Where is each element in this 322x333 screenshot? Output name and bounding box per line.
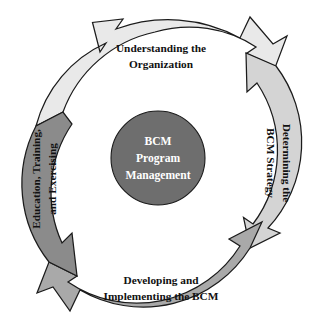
center-hub-line3: Management: [125, 169, 190, 182]
segment-determining-the-bcm-strategy[interactable]: Determining the BCM Strategy: [244, 53, 302, 248]
segment-label-right-line1: Determining the: [281, 124, 293, 203]
segment-label-right-line2: BCM Strategy: [265, 128, 277, 198]
segment-label-left-line1: Education, Training,: [30, 129, 42, 229]
center-hub-line1: BCM: [144, 135, 171, 148]
center-hub[interactable]: BCM Program Management: [111, 111, 205, 205]
segment-label-top-line2: Organization: [129, 58, 194, 70]
segment-education-training-and-exercising[interactable]: Education, Training, and Exercising: [22, 112, 77, 276]
bcm-lifecycle-diagram: Understanding the Organization Determini…: [0, 0, 322, 333]
segment-label-bottom-line2: Implementing the BCM: [104, 290, 219, 302]
cycle-svg: Understanding the Organization Determini…: [0, 0, 322, 333]
segment-label-left-line2: and Exercising: [46, 143, 58, 215]
center-hub-line2: Program: [136, 152, 181, 165]
segment-label-bottom-line1: Developing and: [123, 274, 199, 286]
segment-label-top-line1: Understanding the: [116, 42, 206, 54]
